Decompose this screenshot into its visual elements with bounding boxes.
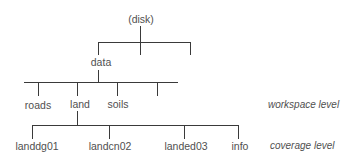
node-disk: (disk): [128, 13, 154, 25]
node-landcn02: landcn02: [89, 140, 132, 152]
node-landdg01: landdg01: [15, 140, 58, 152]
tree-connector-lines: [0, 0, 360, 161]
node-soils: soils: [107, 98, 128, 110]
node-land: land: [70, 98, 90, 110]
workspace-level-label: workspace level: [268, 99, 339, 111]
coverage-level-label: coverage level: [270, 140, 334, 152]
node-data: data: [91, 56, 111, 68]
directory-tree-diagram: (disk) data roads land soils landdg01 la…: [0, 0, 360, 161]
node-landed03: landed03: [164, 140, 207, 152]
node-info: info: [232, 140, 249, 152]
node-roads: roads: [25, 99, 51, 111]
